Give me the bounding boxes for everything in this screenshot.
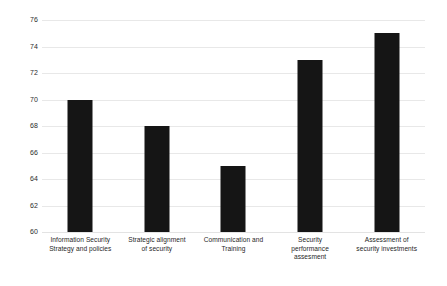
- bar-slot: [42, 20, 119, 232]
- x-axis-label-line: Assessment of: [340, 236, 433, 245]
- y-tick-label: 68: [8, 122, 38, 129]
- bar[interactable]: [374, 33, 399, 232]
- bar[interactable]: [68, 100, 93, 233]
- y-tick-label: 72: [8, 69, 38, 76]
- bar-slot: [272, 20, 349, 232]
- x-axis-label-line: security investments: [340, 245, 433, 254]
- y-tick-label: 62: [8, 202, 38, 209]
- gridline-60: [42, 232, 425, 233]
- bar[interactable]: [221, 166, 246, 232]
- bars-layer: [42, 20, 425, 232]
- bar-slot: [195, 20, 272, 232]
- x-axis-label: Assessment ofsecurity investments: [340, 236, 433, 253]
- bar-slot: [348, 20, 425, 232]
- y-tick-label: 76: [8, 16, 38, 23]
- y-tick-label: 70: [8, 96, 38, 103]
- x-axis-labels: Information SecurityStrategy and policie…: [42, 236, 425, 284]
- y-axis: 767472706866646260: [0, 20, 38, 232]
- bar[interactable]: [298, 60, 323, 232]
- y-tick-label: 60: [8, 228, 38, 235]
- x-axis-label-line: assesment: [264, 253, 357, 262]
- bar[interactable]: [144, 126, 169, 232]
- bar-chart: 767472706866646260 Information SecurityS…: [0, 0, 447, 286]
- y-tick-label: 74: [8, 43, 38, 50]
- y-tick-label: 66: [8, 149, 38, 156]
- y-tick-label: 64: [8, 175, 38, 182]
- bar-slot: [119, 20, 196, 232]
